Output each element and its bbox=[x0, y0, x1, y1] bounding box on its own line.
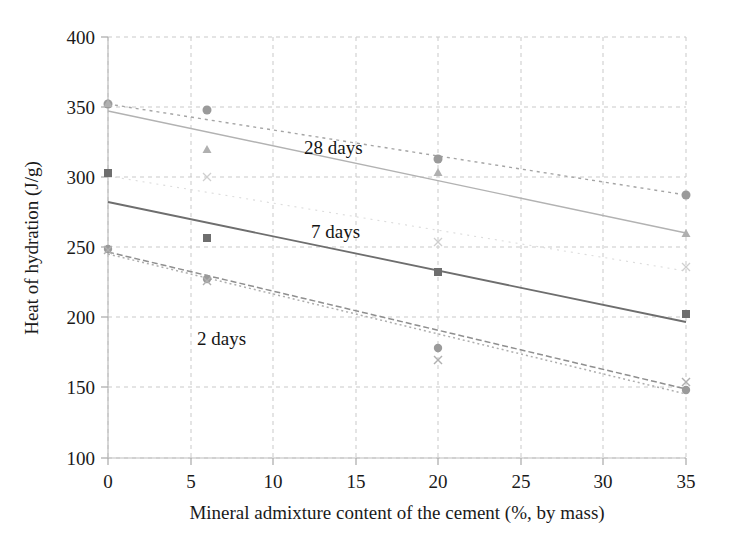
annotation-7-days: 7 days bbox=[311, 221, 360, 242]
heat-of-hydration-chart: 400 350 300 250 200 150 100 0 5 10 15 20… bbox=[0, 0, 730, 550]
x-axis-title: Mineral admixture content of the cement … bbox=[189, 502, 604, 524]
x-tick-label-5: 5 bbox=[186, 471, 196, 492]
y-tick-label-350: 350 bbox=[67, 97, 96, 118]
x-tick-label-30: 30 bbox=[594, 471, 613, 492]
data-point bbox=[682, 191, 691, 200]
y-axis-title: Heat of hydration (J/g) bbox=[21, 161, 43, 335]
data-point bbox=[434, 268, 442, 276]
x-tick-label-0: 0 bbox=[103, 471, 113, 492]
data-point bbox=[682, 386, 690, 394]
data-point bbox=[434, 155, 443, 164]
data-point bbox=[203, 106, 212, 115]
x-tick-label-20: 20 bbox=[429, 471, 448, 492]
x-tick-label-15: 15 bbox=[347, 471, 366, 492]
x-tick-label-25: 25 bbox=[512, 471, 531, 492]
annotation-2-days: 2 days bbox=[197, 328, 246, 349]
y-tick-label-100: 100 bbox=[67, 448, 96, 469]
y-tick-labels: 400 350 300 250 200 150 100 bbox=[67, 27, 96, 469]
data-point bbox=[203, 234, 211, 242]
y-tick-label-150: 150 bbox=[67, 377, 96, 398]
y-tick-label-400: 400 bbox=[67, 27, 96, 48]
data-point bbox=[682, 310, 690, 318]
x-tick-label-35: 35 bbox=[677, 471, 696, 492]
x-tick-labels: 0 5 10 15 20 25 30 35 bbox=[103, 471, 695, 492]
x-tick-marks bbox=[108, 458, 686, 465]
data-point bbox=[104, 245, 112, 253]
data-point bbox=[104, 169, 112, 177]
y-tick-label-250: 250 bbox=[67, 237, 96, 258]
y-tick-label-200: 200 bbox=[67, 307, 96, 328]
x-tick-label-10: 10 bbox=[264, 471, 283, 492]
y-tick-label-300: 300 bbox=[67, 167, 96, 188]
data-point bbox=[434, 344, 442, 352]
annotation-28-days: 28 days bbox=[304, 137, 363, 158]
chart-page: 400 350 300 250 200 150 100 0 5 10 15 20… bbox=[0, 0, 730, 550]
